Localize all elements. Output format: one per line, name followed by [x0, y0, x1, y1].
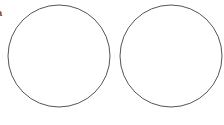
diagram-canvas — [0, 0, 224, 125]
left-circle — [8, 5, 110, 107]
right-circle — [120, 5, 222, 107]
